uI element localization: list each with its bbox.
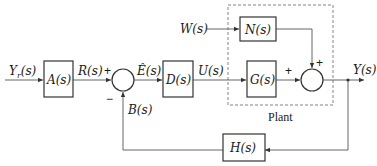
svg-text:A(s): A(s) (46, 73, 72, 87)
feedback-wire-left (123, 92, 223, 150)
signal-error-label: Ê(s) (136, 63, 162, 78)
summing-junction-1 (112, 69, 134, 91)
disturbance-to-sum-wire (276, 29, 312, 68)
signal-control-label: U(s) (198, 64, 224, 78)
svg-text:D(s): D(s) (165, 73, 191, 87)
block-diagram: Plant A(s) D(s) N(s) G(s) H(s) + − + + Y… (0, 0, 377, 166)
signal-disturbance-label: W(s) (180, 22, 208, 36)
pickoff-point (346, 78, 349, 81)
signal-input-label: Yr(s) (9, 64, 37, 80)
block-g: G(s) (247, 61, 276, 97)
sum2-plus-top-sign: + (316, 56, 323, 70)
block-d: D(s) (163, 61, 193, 97)
sum1-minus-sign: − (106, 92, 113, 106)
signal-reference-label: R(s) (77, 64, 103, 78)
svg-text:G(s): G(s) (250, 73, 275, 87)
svg-text:H(s): H(s) (229, 141, 256, 155)
block-h: H(s) (223, 134, 265, 161)
summing-junction-2 (301, 69, 323, 91)
block-a: A(s) (44, 61, 73, 97)
block-n: N(s) (240, 17, 276, 41)
sum1-plus-sign: + (104, 64, 111, 78)
svg-text:N(s): N(s) (244, 23, 271, 37)
signal-output-label: Y(s) (353, 63, 377, 77)
sum2-plus-left-sign: + (285, 64, 292, 78)
signal-feedback-label: B(s) (127, 103, 153, 117)
plant-label: Plant (268, 110, 293, 124)
